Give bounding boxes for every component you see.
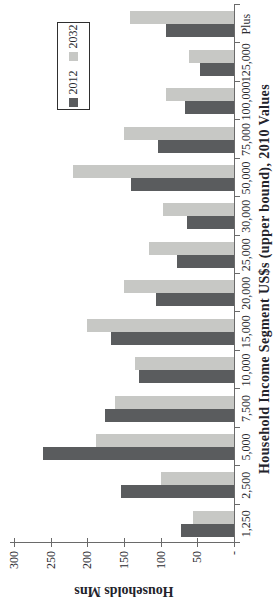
legend: 2012 2032	[57, 22, 90, 110]
bar-2012-10,000	[139, 370, 234, 383]
value-tick-label: -	[228, 551, 240, 601]
category-axis-tick	[234, 273, 240, 274]
value-axis-tick	[234, 538, 235, 547]
bar-group-5,000	[14, 428, 234, 466]
bar-group-20,000	[14, 274, 234, 312]
category-tick-label: 15,000	[240, 315, 252, 348]
bar-2012-1,250	[181, 524, 234, 537]
bar-2012-50,000	[131, 178, 234, 191]
bar-group-7,500	[14, 389, 234, 427]
legend-swatch-2032	[69, 53, 78, 62]
bar-2032-10,000	[135, 357, 234, 370]
category-tick-label: 100,000	[240, 82, 252, 121]
bar-group-125,000	[14, 43, 234, 81]
bar-2032-125,000	[189, 50, 234, 63]
category-axis-tick	[234, 311, 240, 312]
category-tick-label: Plus	[240, 14, 252, 35]
legend-label-2032: 2032	[66, 25, 81, 49]
bar-2032-30,000	[163, 203, 234, 216]
bar-2012-20,000	[156, 293, 234, 306]
value-tick-label: 200	[81, 551, 93, 601]
bar-group-2,500	[14, 466, 234, 504]
category-axis-tick	[234, 427, 240, 428]
bar-group-15,000	[14, 312, 234, 350]
category-axis-title: Household Income Segment US$s (upper bou…	[257, 5, 273, 553]
bar-chart: Households Mns Household Income Segment …	[0, 0, 275, 605]
value-axis-tick	[161, 538, 162, 547]
bar-2012-Plus	[166, 24, 234, 37]
legend-item-2032: 2032	[66, 25, 81, 62]
value-axis-tick	[124, 538, 125, 547]
category-axis-tick	[234, 465, 240, 466]
bar-2032-5,000	[96, 434, 234, 447]
bar-group-30,000	[14, 197, 234, 235]
category-axis-tick	[234, 4, 240, 5]
bar-group-75,000	[14, 120, 234, 158]
bar-2012-25,000	[177, 255, 234, 268]
value-tick-label: 150	[118, 551, 130, 601]
value-axis-tick	[87, 538, 88, 547]
category-axis-tick	[234, 235, 240, 236]
legend-item-2012: 2012	[66, 71, 81, 108]
category-tick-label: 10,000	[240, 354, 252, 387]
value-axis-tick	[197, 538, 198, 547]
category-axis-tick	[234, 504, 240, 505]
bar-2032-50,000	[73, 165, 234, 178]
bar-2032-2,500	[161, 472, 234, 485]
value-tick-label: 50	[191, 551, 203, 601]
value-axis-tick	[14, 538, 15, 547]
bar-2012-30,000	[187, 216, 234, 229]
bar-group-Plus	[14, 5, 234, 43]
bar-group-100,000	[14, 82, 234, 120]
value-tick-label: 250	[45, 551, 57, 601]
category-tick-label: 2,500	[240, 472, 252, 499]
category-axis-tick	[234, 158, 240, 159]
bar-2012-100,000	[185, 101, 234, 114]
bar-2032-20,000	[124, 280, 234, 293]
category-tick-label: 1,250	[240, 510, 252, 537]
bar-2012-75,000	[158, 140, 234, 153]
category-axis-tick	[234, 196, 240, 197]
bar-2032-100,000	[166, 88, 234, 101]
category-tick-label: 30,000	[240, 200, 252, 233]
category-tick-label: 20,000	[240, 277, 252, 310]
category-tick-label: 7,500	[240, 395, 252, 422]
bar-group-50,000	[14, 159, 234, 197]
legend-swatch-2012	[69, 99, 78, 108]
category-tick-label: 5,000	[240, 433, 252, 460]
bar-2032-75,000	[124, 127, 234, 140]
category-tick-label: 25,000	[240, 238, 252, 271]
bar-2032-7,500	[115, 396, 234, 409]
bar-2032-15,000	[87, 319, 234, 332]
bar-2012-7,500	[105, 409, 234, 422]
category-tick-label: 75,000	[240, 123, 252, 156]
category-tick-label: 125,000	[240, 43, 252, 82]
legend-label-2012: 2012	[66, 71, 81, 95]
rotated-chart-viewport: Households Mns Household Income Segment …	[0, 0, 275, 605]
bar-group-10,000	[14, 351, 234, 389]
category-axis-tick	[234, 350, 240, 351]
bar-2012-125,000	[200, 63, 234, 76]
category-axis-tick	[234, 42, 240, 43]
bar-2032-1,250	[193, 511, 234, 524]
value-tick-label: 300	[8, 551, 20, 601]
category-axis-tick	[234, 388, 240, 389]
bar-2032-Plus	[130, 11, 234, 24]
bar-2012-15,000	[111, 332, 234, 345]
bar-2012-2,500	[121, 485, 234, 498]
plot-area	[14, 5, 234, 543]
bar-2012-5,000	[43, 447, 234, 460]
bar-group-25,000	[14, 236, 234, 274]
bar-2032-25,000	[149, 242, 234, 255]
value-tick-label: 100	[155, 551, 167, 601]
category-tick-label: 50,000	[240, 161, 252, 194]
value-axis-tick	[51, 538, 52, 547]
